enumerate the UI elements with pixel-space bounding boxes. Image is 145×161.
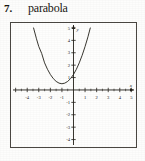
svg-text:1: 1 bbox=[84, 95, 87, 100]
svg-text:y: y bbox=[76, 27, 80, 32]
problem-header: 7. parabola bbox=[0, 0, 145, 20]
problem-number: 7. bbox=[4, 2, 12, 14]
axis-name-labels: xy bbox=[76, 27, 133, 88]
svg-text:-4: -4 bbox=[25, 95, 30, 100]
svg-text:4: 4 bbox=[68, 38, 71, 43]
graph-frame: -4-3-2-112345-4-3-2-112345 xy bbox=[10, 22, 137, 148]
figure-page: 7. parabola -4-3-2-112345-4-3-2-112345 x… bbox=[0, 0, 145, 161]
svg-text:-3: -3 bbox=[37, 95, 42, 100]
svg-text:2: 2 bbox=[68, 63, 71, 68]
tick-labels-group: -4-3-2-112345-4-3-2-112345 bbox=[25, 26, 133, 143]
page-title: parabola bbox=[28, 1, 68, 16]
svg-text:4: 4 bbox=[119, 95, 122, 100]
svg-text:-3: -3 bbox=[66, 125, 71, 130]
parabola-curve bbox=[34, 28, 91, 84]
svg-text:-4: -4 bbox=[66, 137, 71, 142]
svg-text:-2: -2 bbox=[48, 95, 53, 100]
svg-text:-1: -1 bbox=[60, 95, 65, 100]
svg-text:-1: -1 bbox=[66, 100, 71, 105]
svg-text:3: 3 bbox=[107, 95, 110, 100]
svg-text:3: 3 bbox=[68, 50, 71, 55]
svg-text:5: 5 bbox=[68, 26, 71, 31]
svg-text:x: x bbox=[129, 83, 133, 88]
svg-text:5: 5 bbox=[130, 95, 133, 100]
svg-text:-2: -2 bbox=[66, 112, 71, 117]
svg-text:2: 2 bbox=[95, 95, 98, 100]
parabola-plot: -4-3-2-112345-4-3-2-112345 xy bbox=[11, 23, 136, 147]
